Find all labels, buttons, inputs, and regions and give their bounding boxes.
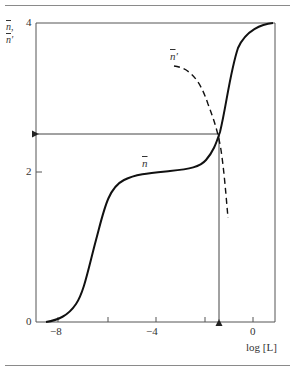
x-tick-label-minus-8: −8 bbox=[50, 325, 62, 337]
y-tick-label-0: 0 bbox=[26, 315, 32, 327]
x-axis-label: log [L] bbox=[246, 341, 277, 353]
y-label-n: n bbox=[6, 21, 11, 32]
series-n-bar-curve bbox=[46, 23, 273, 322]
x-tick-label-0: 0 bbox=[250, 325, 256, 337]
x-axis-ticks bbox=[58, 317, 253, 322]
y-tick-label-4: 4 bbox=[26, 16, 32, 28]
y-label-prime: ′ bbox=[11, 34, 13, 45]
y-tick-label-2: 2 bbox=[26, 165, 32, 177]
chart-plot bbox=[0, 0, 290, 372]
x-tick-label-minus-4: −4 bbox=[146, 325, 158, 337]
series-label-n: n bbox=[142, 157, 148, 169]
series-n-bar-prime-curve bbox=[174, 66, 228, 218]
series-label-prime: ′ bbox=[176, 50, 178, 62]
series-label-n-bar: n bbox=[142, 157, 148, 169]
y-axis-label: n, n′ bbox=[6, 20, 14, 46]
series-label-n-bar-prime: n′ bbox=[170, 50, 178, 62]
